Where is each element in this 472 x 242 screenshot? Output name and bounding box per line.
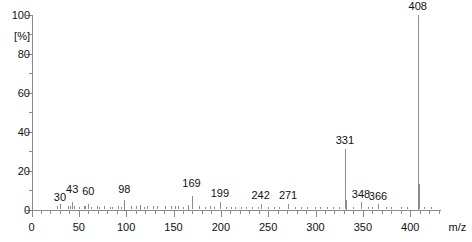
x-axis-major-tick — [126, 211, 127, 217]
x-axis-minor-tick — [88, 211, 89, 214]
x-axis-major-tick — [174, 211, 175, 217]
x-axis-minor-tick — [211, 211, 212, 214]
x-axis-minor-tick — [164, 211, 165, 214]
spectrum-peak — [157, 206, 158, 210]
x-axis-minor-tick — [429, 211, 430, 214]
spectrum-peak — [171, 206, 172, 210]
peak-value-label: 271 — [268, 190, 308, 201]
spectrum-peak-labeled — [261, 204, 262, 210]
spectrum-peak — [112, 207, 113, 210]
spectrum-plot-area: 050100150200250300350400m/z020406080100[… — [0, 0, 472, 242]
x-axis-minor-tick — [69, 211, 70, 214]
spectrum-peak — [258, 207, 259, 210]
x-axis-minor-tick — [117, 211, 118, 214]
spectrum-peak — [386, 207, 387, 210]
spectrum-peak — [85, 206, 86, 210]
spectrum-peak — [327, 207, 328, 210]
y-axis-minor-tick — [29, 151, 32, 152]
spectrum-peak — [431, 207, 432, 210]
spectrum-peak-labeled — [72, 202, 73, 210]
x-axis-minor-tick — [372, 211, 373, 214]
spectrum-peak — [346, 200, 347, 210]
spectrum-peak — [199, 206, 200, 210]
spectrum-peak — [231, 207, 232, 210]
spectrum-peak — [104, 206, 105, 210]
spectrum-peak — [419, 184, 420, 209]
spectrum-peak — [121, 207, 122, 210]
spectrum-peak — [339, 207, 340, 210]
x-axis-minor-tick — [401, 211, 402, 214]
spectrum-peak — [252, 207, 253, 210]
spectrum-peak — [118, 206, 119, 210]
spectrum-peak-labeled — [192, 196, 193, 210]
spectrum-peak-labeled — [88, 204, 89, 210]
x-axis-minor-tick — [249, 211, 250, 214]
spectrum-peak — [226, 207, 227, 210]
spectrum-peak — [140, 205, 141, 210]
spectrum-peak — [320, 207, 321, 210]
spectrum-peak-labeled — [220, 202, 221, 210]
spectrum-peak — [279, 207, 280, 210]
spectrum-peak — [188, 205, 189, 210]
spectrum-peak — [165, 206, 166, 210]
spectrum-peak — [97, 206, 98, 210]
spectrum-peak — [295, 207, 296, 210]
spectrum-peak — [175, 206, 176, 210]
x-axis-tick-label: 200 — [201, 222, 241, 233]
spectrum-peak — [424, 207, 425, 210]
peak-value-label: 408 — [398, 1, 438, 12]
x-axis-minor-tick — [259, 211, 260, 214]
x-axis-minor-tick — [297, 211, 298, 214]
spectrum-peak — [136, 206, 137, 210]
spectrum-peak-labeled — [288, 204, 289, 210]
spectrum-peak — [147, 206, 148, 210]
x-axis-minor-tick — [420, 211, 421, 214]
spectrum-peak — [70, 206, 71, 210]
spectrum-peak — [99, 207, 100, 210]
y-axis-minor-tick — [29, 190, 32, 191]
spectrum-peak — [333, 207, 334, 210]
peak-value-label: 366 — [358, 191, 398, 202]
x-axis-minor-tick — [50, 211, 51, 214]
x-axis-tick-label: 0 — [12, 222, 52, 233]
x-axis-minor-tick — [240, 211, 241, 214]
peak-value-label: 199 — [200, 188, 240, 199]
x-axis-title: m/z — [449, 222, 467, 233]
spectrum-peak — [153, 206, 154, 210]
y-axis-minor-tick — [29, 73, 32, 74]
x-axis-minor-tick — [287, 211, 288, 214]
spectrum-peak-labeled — [418, 15, 419, 210]
spectrum-peak — [214, 207, 215, 210]
x-axis-minor-tick — [278, 211, 279, 214]
y-axis-unit-label: [%] — [0, 31, 30, 42]
spectrum-peak — [401, 207, 402, 210]
peak-value-label: 60 — [68, 186, 108, 197]
x-axis-major-tick — [79, 211, 80, 217]
spectrum-peak — [210, 206, 211, 210]
spectrum-peak — [315, 207, 316, 210]
x-axis-major-tick — [316, 211, 317, 217]
x-axis-minor-tick — [107, 211, 108, 214]
spectrum-peak — [91, 207, 92, 210]
spectrum-peak — [268, 207, 269, 210]
x-axis-minor-tick — [155, 211, 156, 214]
y-axis-tick-label: 60 — [0, 88, 30, 99]
spectrum-peak — [57, 206, 58, 210]
spectrum-peak — [353, 207, 354, 210]
x-axis-minor-tick — [439, 211, 440, 214]
y-axis-tick-label: 0 — [0, 205, 30, 216]
x-axis-minor-tick — [192, 211, 193, 214]
peak-value-label: 98 — [104, 184, 144, 195]
spectrum-peak — [205, 207, 206, 210]
spectrum-peak — [68, 206, 69, 210]
x-axis-minor-tick — [344, 211, 345, 214]
x-axis-minor-tick — [41, 211, 42, 214]
x-axis-major-tick — [363, 211, 364, 217]
spectrum-peak — [301, 207, 302, 210]
spectrum-peak — [144, 207, 145, 210]
spectrum-peak — [246, 207, 247, 210]
spectrum-peak-labeled — [124, 200, 125, 210]
x-axis-major-tick — [410, 211, 411, 217]
y-axis-tick-label: 80 — [0, 49, 30, 60]
x-axis-minor-tick — [98, 211, 99, 214]
